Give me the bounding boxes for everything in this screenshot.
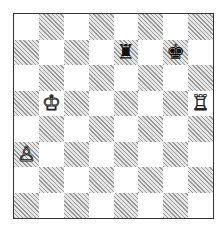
square-d6[interactable] xyxy=(89,65,114,91)
square-c3[interactable] xyxy=(64,142,89,168)
square-g8[interactable] xyxy=(163,14,188,40)
square-c1[interactable] xyxy=(64,193,89,219)
square-g6[interactable] xyxy=(163,65,188,91)
white-pawn-icon[interactable]: ♙ xyxy=(17,144,36,165)
square-g2[interactable] xyxy=(163,167,188,193)
square-d4[interactable] xyxy=(89,116,114,142)
square-g3[interactable] xyxy=(163,142,188,168)
square-a3[interactable]: ♙ xyxy=(14,142,39,168)
square-f2[interactable] xyxy=(138,167,163,193)
square-a7[interactable] xyxy=(14,40,39,66)
square-a5[interactable] xyxy=(14,91,39,117)
square-c4[interactable] xyxy=(64,116,89,142)
black-king-icon[interactable]: ♚ xyxy=(166,42,185,63)
square-e7[interactable]: ♜ xyxy=(114,40,139,66)
square-d3[interactable] xyxy=(89,142,114,168)
square-a6[interactable] xyxy=(14,65,39,91)
square-f1[interactable] xyxy=(138,193,163,219)
white-king-icon[interactable]: ♔ xyxy=(42,93,61,114)
square-e6[interactable] xyxy=(114,65,139,91)
square-g4[interactable] xyxy=(163,116,188,142)
square-g5[interactable] xyxy=(163,91,188,117)
square-h2[interactable] xyxy=(188,167,213,193)
square-h7[interactable] xyxy=(188,40,213,66)
square-c6[interactable] xyxy=(64,65,89,91)
square-f8[interactable] xyxy=(138,14,163,40)
square-e1[interactable] xyxy=(114,193,139,219)
square-d8[interactable] xyxy=(89,14,114,40)
square-b1[interactable] xyxy=(39,193,64,219)
square-a8[interactable] xyxy=(14,14,39,40)
square-a1[interactable] xyxy=(14,193,39,219)
square-f4[interactable] xyxy=(138,116,163,142)
square-h3[interactable] xyxy=(188,142,213,168)
square-d1[interactable] xyxy=(89,193,114,219)
square-c5[interactable] xyxy=(64,91,89,117)
square-a4[interactable] xyxy=(14,116,39,142)
square-c2[interactable] xyxy=(64,167,89,193)
square-f5[interactable] xyxy=(138,91,163,117)
black-rook-icon[interactable]: ♜ xyxy=(117,42,136,63)
square-e8[interactable] xyxy=(114,14,139,40)
square-e4[interactable] xyxy=(114,116,139,142)
square-a2[interactable] xyxy=(14,167,39,193)
square-b6[interactable] xyxy=(39,65,64,91)
square-b3[interactable] xyxy=(39,142,64,168)
square-h8[interactable] xyxy=(188,14,213,40)
square-b7[interactable] xyxy=(39,40,64,66)
square-d5[interactable] xyxy=(89,91,114,117)
square-f6[interactable] xyxy=(138,65,163,91)
square-h4[interactable] xyxy=(188,116,213,142)
square-e5[interactable] xyxy=(114,91,139,117)
square-h6[interactable] xyxy=(188,65,213,91)
square-f7[interactable] xyxy=(138,40,163,66)
square-b8[interactable] xyxy=(39,14,64,40)
square-e3[interactable] xyxy=(114,142,139,168)
square-f3[interactable] xyxy=(138,142,163,168)
square-d7[interactable] xyxy=(89,40,114,66)
chess-board: ♜♚♔♖♙ xyxy=(13,13,214,219)
square-g7[interactable]: ♚ xyxy=(163,40,188,66)
square-c7[interactable] xyxy=(64,40,89,66)
square-h1[interactable] xyxy=(188,193,213,219)
square-b4[interactable] xyxy=(39,116,64,142)
square-b5[interactable]: ♔ xyxy=(39,91,64,117)
square-b2[interactable] xyxy=(39,167,64,193)
square-g1[interactable] xyxy=(163,193,188,219)
white-rook-icon[interactable]: ♖ xyxy=(191,93,210,114)
square-h5[interactable]: ♖ xyxy=(188,91,213,117)
square-e2[interactable] xyxy=(114,167,139,193)
square-d2[interactable] xyxy=(89,167,114,193)
square-c8[interactable] xyxy=(64,14,89,40)
